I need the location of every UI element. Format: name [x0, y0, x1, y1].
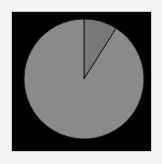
pie-slice-large — [24, 19, 144, 139]
pie-chart — [0, 0, 162, 164]
pie-slices — [24, 19, 144, 139]
